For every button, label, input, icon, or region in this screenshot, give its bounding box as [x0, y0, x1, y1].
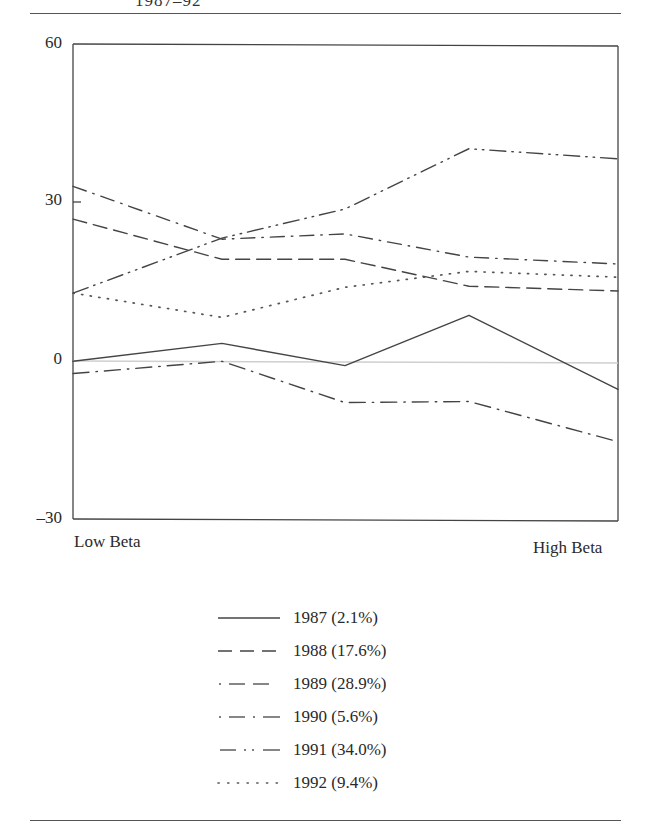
dashed-line-icon [215, 640, 285, 662]
legend-label: 1991 (34.0%) [293, 740, 386, 760]
series-line-1989 [73, 186, 618, 264]
dot-dash-dash-line-icon [215, 673, 285, 695]
legend-label: 1987 (2.1%) [293, 608, 378, 628]
dot-dash-line-icon [215, 706, 285, 728]
x-label-low-beta: Low Beta [74, 532, 141, 552]
plot-frame [73, 44, 618, 521]
series-line-1992 [73, 271, 618, 317]
legend-item-1988: 1988 (17.6%) [0, 640, 651, 662]
legend-item-1991: 1991 (34.0%) [0, 739, 651, 761]
legend-item-1990: 1990 (5.6%) [0, 706, 651, 728]
series-line-1990 [73, 361, 618, 441]
legend-label: 1988 (17.6%) [293, 641, 386, 661]
zero-line [73, 361, 618, 363]
series-line-1988 [73, 219, 618, 291]
dotted-line-icon [215, 772, 285, 794]
line-chart [0, 0, 651, 560]
legend-label: 1989 (28.9%) [293, 674, 386, 694]
series-line-1991 [73, 149, 618, 293]
solid-line-icon [215, 607, 285, 629]
x-label-high-beta: High Beta [533, 538, 602, 558]
bottom-rule [30, 820, 621, 821]
legend-label: 1990 (5.6%) [293, 707, 378, 727]
legend-item-1989: 1989 (28.9%) [0, 673, 651, 695]
series-line-1987 [73, 315, 618, 389]
legend-label: 1992 (9.4%) [293, 773, 378, 793]
legend-item-1987: 1987 (2.1%) [0, 607, 651, 629]
series-layer [73, 149, 618, 442]
dash-dot-dot-line-icon [215, 739, 285, 761]
legend-item-1992: 1992 (9.4%) [0, 772, 651, 794]
